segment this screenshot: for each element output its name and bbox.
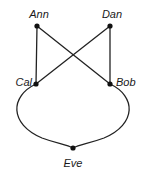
node-dot-dan: [107, 23, 112, 28]
node-label-eve: Eve: [64, 157, 83, 169]
edge-cal-eve: [17, 84, 73, 148]
edge-group: [17, 26, 129, 148]
graph-canvas: Ann Dan Cal Bob Eve: [0, 0, 147, 173]
node-label-dan: Dan: [102, 8, 122, 20]
edge-bob-eve: [73, 84, 129, 148]
node-dot-ann: [34, 23, 39, 28]
node-label-ann: Ann: [28, 8, 49, 20]
node-dot-bob: [107, 81, 112, 86]
node-dot-eve: [70, 145, 75, 150]
edge-ann-cal: [36, 26, 37, 84]
node-label-cal: Cal: [15, 76, 32, 88]
node-dot-cal: [33, 81, 38, 86]
node-label-bob: Bob: [116, 76, 136, 88]
node-group: [33, 23, 112, 150]
graph-diagram: Ann Dan Cal Bob Eve: [0, 0, 147, 173]
